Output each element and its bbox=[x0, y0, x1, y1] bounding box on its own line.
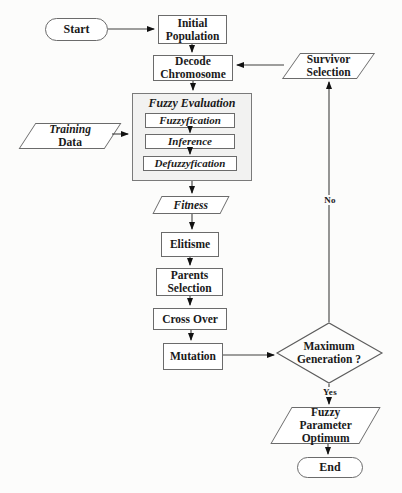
training-data-line1: Training bbox=[49, 123, 91, 135]
training-data-line2: Data bbox=[58, 136, 82, 148]
training-data-node: TrainingData bbox=[19, 123, 122, 149]
decode-chromosome-node: Decode Chromosome bbox=[153, 55, 233, 81]
yes-branch-label: Yes bbox=[318, 387, 342, 397]
initial-population-node: Initial Population bbox=[158, 15, 227, 44]
no-branch-label: No bbox=[320, 195, 340, 205]
start-node: Start bbox=[45, 18, 108, 41]
inference-node: Inference bbox=[145, 134, 235, 149]
maximum-generation-label: Maximum Generation ? bbox=[279, 331, 379, 375]
end-node: End bbox=[297, 457, 363, 478]
elitisme-node: Elitisme bbox=[161, 232, 219, 257]
parents-selection-node: Parents Selection bbox=[156, 268, 223, 296]
fuzzy-parameter-optimum-node: Fuzzy Parameter Optimum bbox=[270, 407, 380, 444]
defuzzyfication-node: Defuzzyfication bbox=[143, 156, 237, 171]
training-data-label: TrainingData bbox=[28, 123, 112, 149]
mutation-node: Mutation bbox=[163, 343, 223, 370]
fitness-label: Fitness bbox=[158, 199, 224, 212]
fuzzyfication-node: Fuzzyfication bbox=[145, 113, 235, 128]
fuzzy-evaluation-title: Fuzzy Evaluation bbox=[132, 96, 252, 111]
flowchart-canvas: Start Initial Population Decode Chromoso… bbox=[0, 0, 402, 493]
cross-over-node: Cross Over bbox=[153, 308, 227, 330]
survivor-selection-label: Survivor Selection bbox=[292, 53, 365, 79]
survivor-selection-node: Survivor Selection bbox=[282, 53, 375, 79]
fitness-node: Fitness bbox=[152, 196, 229, 214]
fuzzy-parameter-optimum-label: Fuzzy Parameter Optimum bbox=[282, 406, 369, 445]
